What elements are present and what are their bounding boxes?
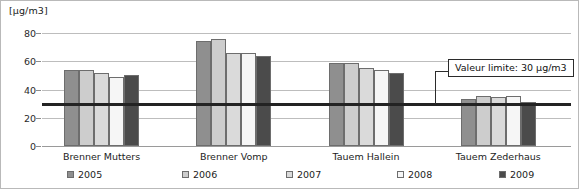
bar-2005-brenner-mutters: [64, 70, 79, 146]
legend-item-2005[interactable]: 2005: [67, 169, 102, 180]
bar-group: [329, 33, 404, 146]
bar-group: [196, 33, 271, 146]
callout-leader-horizontal: [435, 71, 448, 72]
y-tick-mark: [36, 33, 41, 34]
legend-label: 2005: [78, 169, 102, 180]
bar-group: [64, 33, 139, 146]
limit-callout-box: Valeur limite: 30 µg/m3: [448, 59, 574, 77]
y-tick-label: 0: [6, 141, 36, 152]
bar-2009-brenner-mutters: [124, 75, 139, 146]
gridline: [42, 146, 571, 147]
y-tick-mark: [36, 118, 41, 119]
bar-2006-brenner-mutters: [79, 70, 94, 146]
chart-legend: 20052006200720082009: [1, 169, 579, 185]
y-tick-label: 60: [6, 56, 36, 67]
legend-item-2009[interactable]: 2009: [499, 169, 534, 180]
bar-2005-brenner-vomp: [196, 41, 211, 146]
legend-swatch-icon: [182, 171, 189, 178]
bar-2008-brenner-mutters: [109, 77, 124, 146]
legend-swatch-icon: [499, 171, 506, 178]
plot-area: [42, 33, 571, 146]
legend-item-2008[interactable]: 2008: [397, 169, 432, 180]
category-label: Tauem Zederhaus: [456, 151, 541, 162]
legend-label: 2007: [297, 169, 321, 180]
y-axis-unit-label: [µg/m3]: [9, 5, 48, 16]
bar-2008-brenner-vomp: [241, 53, 256, 146]
category-label: Brenner Mutters: [63, 151, 140, 162]
legend-swatch-icon: [397, 171, 404, 178]
category-label: Brenner Vomp: [200, 151, 268, 162]
legend-label: 2008: [408, 169, 432, 180]
bar-chart: [µg/m3] 020406080 Valeur limite: 30 µg/m…: [0, 0, 579, 189]
callout-leader-vertical: [435, 71, 436, 104]
y-tick-label: 80: [6, 28, 36, 39]
y-tick-label: 20: [6, 112, 36, 123]
category-axis: Brenner MuttersBrenner VompTauem Hallein…: [42, 151, 571, 165]
y-tick-label: 40: [6, 84, 36, 95]
y-tick-mark: [36, 61, 41, 62]
bar-2008-tauem-hallein: [374, 70, 389, 146]
legend-item-2006[interactable]: 2006: [182, 169, 217, 180]
y-tick-mark: [36, 146, 41, 147]
bar-2007-brenner-mutters: [94, 73, 109, 146]
bar-2007-brenner-vomp: [226, 53, 241, 146]
bar-2007-tauem-hallein: [359, 68, 374, 146]
legend-swatch-icon: [67, 171, 74, 178]
bar-2009-tauem-hallein: [389, 73, 404, 146]
y-axis-tick-labels: 020406080: [4, 33, 36, 146]
legend-label: 2006: [193, 169, 217, 180]
category-label: Tauem Hallein: [333, 151, 400, 162]
legend-label: 2009: [510, 169, 534, 180]
legend-swatch-icon: [286, 171, 293, 178]
bar-2005-tauem-zederhaus: [461, 99, 476, 146]
bar-2009-tauem-zederhaus: [521, 102, 536, 146]
y-tick-mark: [36, 90, 41, 91]
bar-2006-brenner-vomp: [211, 39, 226, 146]
legend-item-2007[interactable]: 2007: [286, 169, 321, 180]
bar-2009-brenner-vomp: [256, 56, 271, 146]
limit-line: [42, 103, 571, 106]
bar-group: [461, 33, 536, 146]
